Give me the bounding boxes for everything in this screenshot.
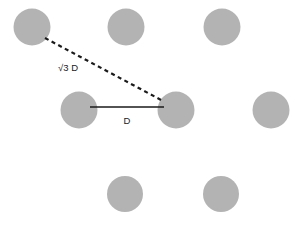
atom-circle-a3 [204,9,241,46]
measurement-label-m-diagonal: √3 D [58,62,78,73]
atom-circle-a5 [158,92,195,129]
atom-circle-a8 [203,176,239,212]
measurement-label-m-horizontal: D [124,115,131,126]
atom-layer [14,9,290,213]
atom-circle-a2 [108,9,145,46]
atom-circle-a1 [14,9,51,46]
diagram-canvas: √3 DD [0,0,305,226]
atom-circle-a6 [253,92,290,129]
lattice-diagram: √3 DD [0,0,305,226]
atom-circle-a4 [61,92,98,129]
atom-circle-a7 [107,176,143,212]
